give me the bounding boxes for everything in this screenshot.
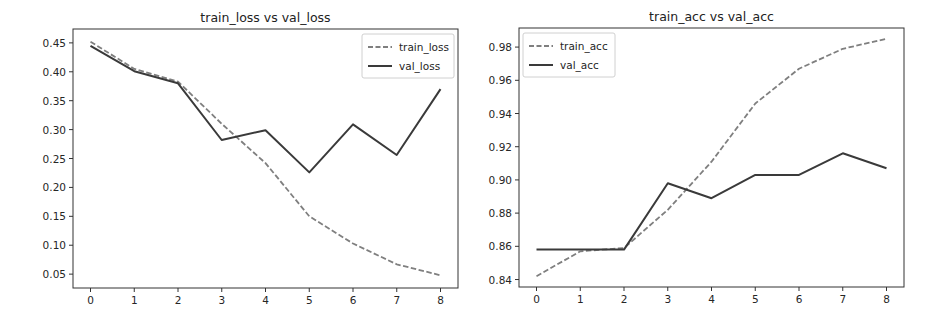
chart-loss: train_loss vs val_loss0123456780.050.100… bbox=[43, 10, 458, 306]
x-tick-label: 4 bbox=[262, 294, 269, 306]
x-tick-label: 3 bbox=[218, 294, 225, 306]
legend-label-val-acc: val_acc bbox=[560, 59, 599, 72]
x-tick-label: 7 bbox=[839, 293, 846, 305]
y-tick-label: 0.10 bbox=[43, 239, 66, 251]
x-tick-label: 8 bbox=[437, 294, 444, 306]
x-tick-label: 6 bbox=[796, 293, 803, 305]
legend-label-train-acc: train_acc bbox=[560, 40, 608, 53]
x-tick-label: 4 bbox=[708, 293, 715, 305]
chart-canvas: train_loss vs val_loss0123456780.050.100… bbox=[0, 0, 937, 316]
x-tick-label: 1 bbox=[131, 294, 138, 306]
x-tick-label: 5 bbox=[752, 293, 759, 305]
y-tick-label: 0.92 bbox=[489, 141, 512, 153]
y-tick-label: 0.96 bbox=[489, 74, 513, 86]
legend: train_accval_acc bbox=[523, 33, 615, 77]
y-tick-label: 0.88 bbox=[489, 207, 512, 219]
y-tick-label: 0.15 bbox=[43, 210, 66, 222]
y-tick-label: 0.30 bbox=[43, 124, 66, 136]
figure: train_loss vs val_loss0123456780.050.100… bbox=[0, 0, 937, 316]
y-tick-label: 0.45 bbox=[43, 37, 66, 49]
x-tick-label: 2 bbox=[175, 294, 182, 306]
chart-title: train_loss vs val_loss bbox=[200, 10, 330, 25]
legend-label-val-loss: val_loss bbox=[399, 60, 440, 73]
x-tick-label: 5 bbox=[306, 294, 313, 306]
x-tick-label: 0 bbox=[87, 294, 94, 306]
x-tick-label: 1 bbox=[577, 293, 584, 305]
y-tick-label: 0.86 bbox=[489, 240, 513, 252]
chart-accuracy: train_acc vs val_acc0123456780.840.860.8… bbox=[489, 9, 904, 305]
y-tick-label: 0.84 bbox=[489, 274, 513, 286]
y-tick-label: 0.40 bbox=[43, 66, 66, 78]
x-tick-label: 6 bbox=[350, 294, 357, 306]
chart-title: train_acc vs val_acc bbox=[649, 9, 774, 24]
y-tick-label: 0.94 bbox=[489, 108, 513, 120]
x-tick-label: 8 bbox=[883, 293, 890, 305]
x-tick-label: 0 bbox=[533, 293, 540, 305]
y-tick-label: 0.05 bbox=[43, 268, 66, 280]
y-tick-label: 0.25 bbox=[43, 153, 66, 165]
series-val-acc bbox=[537, 153, 887, 249]
legend: train_lossval_loss bbox=[362, 34, 454, 78]
y-tick-label: 0.90 bbox=[489, 174, 512, 186]
x-tick-label: 7 bbox=[393, 294, 400, 306]
y-tick-label: 0.20 bbox=[43, 181, 66, 193]
legend-label-train-loss: train_loss bbox=[399, 41, 449, 54]
y-tick-label: 0.35 bbox=[43, 95, 66, 107]
y-tick-label: 0.98 bbox=[489, 41, 512, 53]
x-tick-label: 2 bbox=[621, 293, 628, 305]
x-tick-label: 3 bbox=[664, 293, 671, 305]
